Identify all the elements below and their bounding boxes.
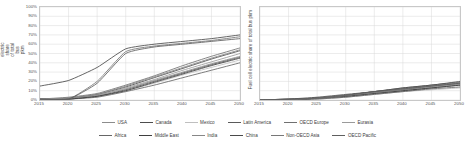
x-tick-label: 2045 (426, 101, 436, 106)
y-axis-label-left: Battery and Trolley electric share of to… (0, 0, 11, 100)
figure-root: Battery and Trolley electric share of to… (0, 0, 475, 151)
legend-line-swatch (230, 135, 243, 136)
x-tick-label: 2015 (254, 101, 264, 106)
legend-item[interactable]: Non-OECD Asia (271, 133, 320, 138)
legend-item[interactable]: Africa (99, 133, 126, 138)
x-tick-label: 2025 (311, 101, 321, 106)
legend-item-label: Middle East (155, 133, 179, 138)
y-tick-label: 70% (28, 31, 37, 36)
y-tick-label: 90% (28, 13, 37, 18)
legend-item[interactable]: Mexico (185, 120, 215, 125)
x-tick-label: 2035 (368, 101, 378, 106)
legend-item[interactable]: OECD Europe (284, 120, 329, 125)
line-chart-left (40, 7, 240, 100)
plot-area-right (259, 6, 461, 101)
legend-line-swatch (332, 135, 345, 136)
legend-item-label: Eurasia (357, 120, 373, 125)
legend-line-swatch (102, 122, 115, 123)
legend-item-label: Latin America (243, 120, 271, 125)
x-tick-label: 2020 (63, 101, 73, 106)
legend-item[interactable]: Eurasia (342, 120, 373, 125)
y-tick-label: 50% (28, 50, 37, 55)
legend-item[interactable]: Canada (140, 120, 172, 125)
legend-line-swatch (271, 135, 284, 136)
y-axis-ticks-left: 0%10%20%30%40%50%60%70%80%90%100% (24, 6, 38, 99)
legend-item-label: USA (118, 120, 127, 125)
x-tick-label: 2050 (234, 101, 244, 106)
legend-item[interactable]: India (192, 133, 217, 138)
legend-item-label: India (207, 133, 217, 138)
x-tick-label: 2015 (34, 101, 44, 106)
y-axis-label-right: Fuel cell electric share of total bus pk… (245, 0, 256, 100)
y-tick-label: 10% (28, 87, 37, 92)
legend-item[interactable]: OECD Pacific (332, 133, 376, 138)
legend-line-swatch (185, 122, 198, 123)
legend-item[interactable]: China (230, 133, 258, 138)
y-tick-label: 20% (28, 78, 37, 83)
legend-line-swatch (140, 122, 153, 123)
y-tick-label: 40% (28, 59, 37, 64)
y-axis-label-right-text: Fuel cell electric share of total bus pk… (248, 10, 253, 89)
x-tick-label: 2045 (206, 101, 216, 106)
legend-line-swatch (228, 122, 241, 123)
line-chart-right (260, 7, 460, 100)
legend-line-swatch (192, 135, 205, 136)
y-axis-label-left-text: Battery and Trolley electric share of to… (0, 43, 26, 58)
legend-item-label: China (246, 133, 258, 138)
y-tick-label: 100% (26, 4, 37, 9)
legend-item[interactable]: Middle East (139, 133, 179, 138)
legend-item[interactable]: Latin America (228, 120, 271, 125)
legend-item-label: Africa (114, 133, 126, 138)
x-tick-label: 2030 (340, 101, 350, 106)
plot-area-left (39, 6, 241, 101)
charts-container: Battery and Trolley electric share of to… (0, 0, 475, 114)
x-tick-label: 2035 (148, 101, 158, 106)
legend-row-2: AfricaMiddle EastIndiaChinaNon-OECD Asia… (0, 130, 475, 140)
y-tick-label: 30% (28, 69, 37, 74)
x-tick-label: 2040 (177, 101, 187, 106)
legend-item-label: Mexico (200, 120, 215, 125)
legend-item-label: OECD Pacific (348, 133, 376, 138)
legend-item-label: Non-OECD Asia (286, 133, 319, 138)
x-axis-ticks-left: 20152020202520302035204020452050 (39, 101, 239, 111)
chart-legend: USACanadaMexicoLatin AmericaOECD EuropeE… (0, 114, 475, 151)
legend-item-label: OECD Europe (300, 120, 329, 125)
legend-line-swatch (139, 135, 152, 136)
legend-row-1: USACanadaMexicoLatin AmericaOECD EuropeE… (0, 117, 475, 127)
legend-line-swatch (284, 122, 297, 123)
x-tick-label: 2040 (397, 101, 407, 106)
legend-item[interactable]: USA (102, 120, 127, 125)
legend-item-label: Canada (156, 120, 172, 125)
legend-line-swatch (342, 122, 355, 123)
y-tick-label: 60% (28, 41, 37, 46)
chart-panel-fuel-cell: Fuel cell electric share of total bus pk… (245, 0, 475, 114)
x-axis-ticks-right: 20152020202520302035204020452050 (259, 101, 459, 111)
y-tick-label: 80% (28, 22, 37, 27)
x-tick-label: 2030 (120, 101, 130, 106)
x-tick-label: 2025 (91, 101, 101, 106)
chart-panel-battery-trolley: Battery and Trolley electric share of to… (0, 0, 245, 114)
legend-line-swatch (99, 135, 112, 136)
x-tick-label: 2050 (454, 101, 464, 106)
x-tick-label: 2020 (283, 101, 293, 106)
